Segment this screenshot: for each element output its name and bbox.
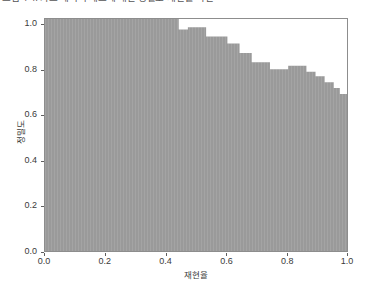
x-tick-label-0.2: 0.2: [90, 257, 120, 266]
y-tick-mark-0.4: [41, 161, 44, 162]
x-tick-label-0.0: 0.0: [29, 257, 59, 266]
x-tick-label-1.0: 1.0: [332, 257, 362, 266]
y-tick-label-0.0: 0.0: [11, 247, 37, 256]
y-tick-mark-0.2: [41, 206, 44, 207]
x-tick-label-0.6: 0.6: [211, 257, 241, 266]
y-tick-label-0.8: 0.8: [11, 65, 37, 74]
precision-recall-chart: 1.0 0.8 0.6 0.4 0.2 0.0 0.0 0.2 0.4 0.6 …: [0, 0, 373, 286]
y-tick-mark-0.8: [41, 70, 44, 71]
plot-svg: [45, 19, 348, 252]
y-tick-label-1.0: 1.0: [11, 19, 37, 28]
y-tick-mark-0.6: [41, 115, 44, 116]
y-axis-title: 정밀도: [14, 102, 26, 162]
x-tick-label-0.4: 0.4: [151, 257, 181, 266]
x-tick-label-0.8: 0.8: [272, 257, 302, 266]
y-tick-label-0.2: 0.2: [11, 201, 37, 210]
y-tick-mark-1.0: [41, 24, 44, 25]
plot-area: [44, 18, 348, 252]
x-axis-title: 재현율: [44, 268, 348, 280]
